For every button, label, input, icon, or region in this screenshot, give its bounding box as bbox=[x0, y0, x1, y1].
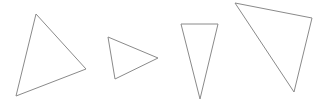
triangle-3 bbox=[181, 24, 218, 99]
triangle-1 bbox=[16, 14, 86, 96]
shapes-canvas bbox=[0, 0, 324, 110]
triangle-4 bbox=[235, 3, 312, 92]
triangle-2 bbox=[108, 37, 158, 79]
